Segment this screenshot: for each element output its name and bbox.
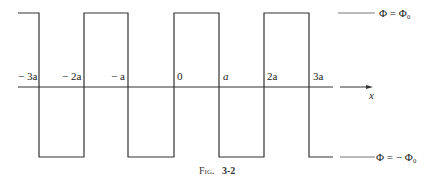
tick-label: 0 (177, 70, 183, 82)
tick-label: − 2a (62, 70, 81, 82)
square-wave (18, 13, 333, 157)
phi-low-label: Φ = − Φ₀ (376, 151, 417, 163)
figure-caption-prefix: Fig. (199, 165, 214, 176)
figure-caption-number: 3-2 (222, 165, 235, 176)
square-wave-diagram: − 3a − 2a − a 0 a 2a 3a x Φ = Φ₀ Φ = − Φ… (0, 0, 437, 178)
tick-label: 3a (313, 70, 324, 82)
tick-label: 2a (267, 70, 278, 82)
tick-label: − a (111, 70, 125, 82)
tick-label: a (223, 70, 229, 82)
phi-high-label: Φ = Φ₀ (379, 7, 411, 19)
x-axis-label: x (368, 89, 374, 101)
tick-label: − 3a (18, 70, 37, 82)
